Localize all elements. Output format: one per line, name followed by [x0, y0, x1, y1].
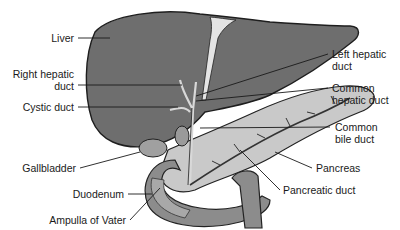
label-gallbladder-text: Gallbladder	[22, 162, 76, 174]
label-pancreatic-duct-text: Pancreatic duct	[283, 184, 355, 196]
label-duodenum-text: Duodenum	[73, 188, 124, 200]
label-common-hepatic-duct-line1: Common	[332, 82, 389, 94]
label-liver-text: Liver	[51, 32, 74, 44]
label-ampulla-of-vater-text: Ampulla of Vater	[49, 214, 126, 226]
label-common-bile-duct-line2: bile duct	[335, 133, 378, 145]
label-pancreas: Pancreas	[316, 162, 360, 174]
label-ampulla-of-vater: Ampulla of Vater	[20, 214, 126, 226]
label-pancreatic-duct: Pancreatic duct	[283, 184, 355, 196]
label-left-hepatic-duct: Left hepatic duct	[332, 48, 386, 72]
label-right-hepatic-duct-line2: duct	[0, 80, 74, 92]
label-right-hepatic-duct-line1: Right hepatic	[0, 68, 74, 80]
label-pancreas-text: Pancreas	[316, 162, 360, 174]
label-left-hepatic-duct-line1: Left hepatic	[332, 48, 386, 60]
label-common-bile-duct-line1: Common	[335, 121, 378, 133]
gallbladder-shape	[139, 139, 167, 157]
label-duodenum: Duodenum	[40, 188, 124, 200]
label-gallbladder: Gallbladder	[0, 162, 76, 174]
label-cystic-duct: Cystic duct	[0, 101, 74, 113]
label-liver: Liver	[34, 32, 74, 44]
label-common-hepatic-duct: Common hepatic duct	[332, 82, 389, 106]
label-right-hepatic-duct: Right hepatic duct	[0, 68, 74, 92]
label-cystic-duct-text: Cystic duct	[23, 101, 74, 113]
label-common-bile-duct: Common bile duct	[335, 121, 378, 145]
label-common-hepatic-duct-line2: hepatic duct	[332, 94, 389, 106]
duct-loop	[175, 126, 189, 146]
label-left-hepatic-duct-line2: duct	[332, 60, 386, 72]
